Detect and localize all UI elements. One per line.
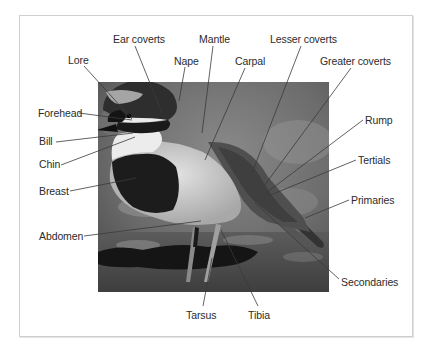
label-mantle: Mantle <box>199 33 230 45</box>
label-chin: Chin <box>39 158 60 170</box>
label-tarsus: Tarsus <box>186 309 216 321</box>
label-primaries: Primaries <box>351 194 394 206</box>
label-breast: Breast <box>39 185 69 197</box>
label-secondaries: Secondaries <box>341 276 398 288</box>
label-carpal: Carpal <box>235 55 265 67</box>
label-lore: Lore <box>68 54 89 66</box>
label-rump: Rump <box>365 114 393 126</box>
label-ear-coverts: Ear coverts <box>113 33 165 45</box>
label-nape: Nape <box>174 55 199 67</box>
label-greater-coverts: Greater coverts <box>320 55 391 67</box>
label-bill: Bill <box>39 135 53 147</box>
label-tibia: Tibia <box>248 309 270 321</box>
bird-photo <box>98 82 329 292</box>
plover-illustration <box>98 82 329 292</box>
label-abdomen: Abdomen <box>39 230 83 242</box>
label-lesser-coverts: Lesser coverts <box>270 33 337 45</box>
label-forehead: Forehead <box>38 107 82 119</box>
label-tertials: Tertials <box>358 154 390 166</box>
